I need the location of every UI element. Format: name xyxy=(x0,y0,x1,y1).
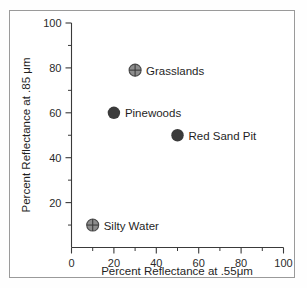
data-point: Pinewoods xyxy=(108,107,182,120)
data-points: GrasslandsPinewoodsRed Sand PitSilty Wat… xyxy=(87,64,257,231)
axis-tick-labels: 02040608010020406080100 xyxy=(43,17,293,269)
data-point-label: Silty Water xyxy=(104,220,159,232)
figure-container: 02040608010020406080100 GrasslandsPinewo… xyxy=(0,0,307,288)
data-point: Grasslands xyxy=(129,64,204,77)
data-point-label: Red Sand Pit xyxy=(189,130,258,142)
data-point: Red Sand Pit xyxy=(171,129,257,142)
filled-circle-marker xyxy=(171,129,183,141)
y-tick-label: 100 xyxy=(43,17,61,29)
x-axis-title: Percent Reflectance at .55μm xyxy=(101,265,253,277)
data-point-label: Grasslands xyxy=(146,65,204,77)
data-point-label: Pinewoods xyxy=(125,107,182,119)
filled-circle-marker xyxy=(108,107,120,119)
scatter-plot: 02040608010020406080100 GrasslandsPinewo… xyxy=(0,0,307,288)
y-axis-title: Percent Reflectance at .85 μm xyxy=(20,58,32,213)
data-point: Silty Water xyxy=(87,219,159,232)
y-tick-label: 40 xyxy=(49,152,61,164)
y-tick-label: 80 xyxy=(49,62,61,74)
x-tick-label: 100 xyxy=(274,257,292,269)
x-tick-label: 0 xyxy=(68,257,74,269)
y-tick-label: 20 xyxy=(49,197,61,209)
y-tick-label: 60 xyxy=(49,107,61,119)
